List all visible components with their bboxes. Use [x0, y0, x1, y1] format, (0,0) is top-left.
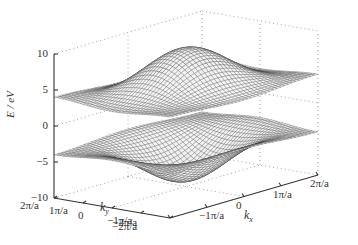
ky-tick-label: 0: [78, 209, 84, 221]
kx-tick-label: 2π/a: [310, 177, 329, 189]
z-axis-label: E / eV: [4, 91, 16, 118]
z-tick-label: 5: [43, 83, 49, 95]
ky-axis-label: ky: [100, 200, 109, 216]
energy-band-mesh: [54, 47, 318, 182]
kx-tick-label: 0: [236, 199, 242, 211]
kx-tick-label: −2π/a: [112, 220, 137, 232]
z-tick-label: −5: [36, 155, 48, 167]
kx-axis-label: kx: [244, 208, 253, 224]
kx-tick-label: −1π/a: [199, 209, 224, 221]
z-tick-label: 0: [43, 119, 49, 131]
z-tick-label: 10: [37, 47, 48, 59]
ky-tick-label: 2π/a: [20, 199, 39, 211]
ky-tick-label: 1π/a: [49, 204, 68, 216]
kx-tick-label: 1π/a: [273, 188, 292, 200]
